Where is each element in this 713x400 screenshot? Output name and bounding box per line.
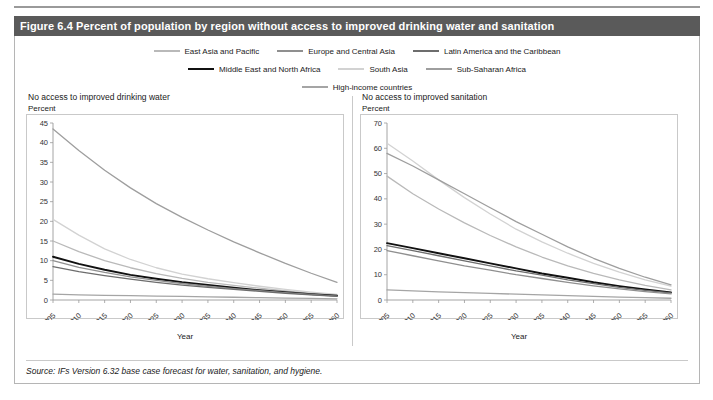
source-bar: Source: IFs Version 6.32 base case forec…	[26, 360, 688, 376]
svg-text:10: 10	[40, 256, 48, 265]
svg-text:0: 0	[44, 296, 48, 305]
legend-item-high-income-countries: High-income countries	[302, 83, 413, 92]
panel-divider	[352, 96, 353, 346]
chart-ylabel-water: Percent	[28, 104, 356, 113]
chart-title-sanitation: No access to improved sanitation	[362, 92, 690, 102]
svg-text:2015: 2015	[91, 311, 109, 320]
svg-text:2035: 2035	[528, 311, 546, 320]
svg-text:45: 45	[40, 119, 48, 128]
legend-item-sub-saharan-africa: Sub-Saharan Africa	[426, 65, 526, 74]
legend-row-1: East Asia and Pacific Europe and Central…	[14, 44, 700, 58]
plot-svg-sanitation: 0102030405060702005201020152020202520302…	[361, 115, 679, 320]
svg-text:2010: 2010	[65, 311, 83, 320]
svg-text:2020: 2020	[117, 311, 135, 320]
chart-xlabel-sanitation: Year	[360, 332, 678, 341]
chart-title-water: No access to improved drinking water	[28, 92, 356, 102]
svg-text:40: 40	[374, 194, 382, 203]
plot-area-sanitation: 0102030405060702005201020152020202520302…	[360, 114, 678, 319]
legend-label: Sub-Saharan Africa	[457, 65, 526, 74]
svg-text:2060: 2060	[657, 311, 675, 320]
svg-text:30: 30	[40, 178, 48, 187]
legend-item-europe-and-central-asia: Europe and Central Asia	[277, 47, 395, 56]
chart-panel-sanitation: No access to improved sanitation Percent…	[360, 92, 690, 354]
legend-label: Europe and Central Asia	[308, 47, 395, 56]
svg-text:2030: 2030	[502, 311, 520, 320]
legend-label: Middle East and North Africa	[219, 65, 320, 74]
svg-text:2030: 2030	[168, 311, 186, 320]
svg-text:30: 30	[374, 220, 382, 229]
legend-swatch	[413, 50, 439, 52]
svg-text:2060: 2060	[323, 311, 341, 320]
svg-text:70: 70	[374, 119, 382, 128]
plot-svg-water: 0510152025303540452005201020152020202520…	[27, 115, 345, 320]
svg-text:2010: 2010	[399, 311, 417, 320]
svg-text:0: 0	[378, 296, 382, 305]
legend-item-south-asia: South Asia	[338, 65, 407, 74]
svg-text:2035: 2035	[194, 311, 212, 320]
svg-text:35: 35	[40, 158, 48, 167]
chart-ylabel-sanitation: Percent	[362, 104, 690, 113]
legend-swatch	[426, 68, 452, 70]
svg-text:2050: 2050	[606, 311, 624, 320]
svg-text:2005: 2005	[39, 311, 57, 320]
legend-swatch	[277, 50, 303, 52]
chart-panel-water: No access to improved drinking water Per…	[26, 92, 356, 354]
svg-text:2040: 2040	[220, 311, 238, 320]
legend-item-middle-east-and-north-africa: Middle East and North Africa	[188, 65, 320, 74]
top-rule	[14, 6, 700, 8]
legend-swatch	[302, 86, 328, 88]
svg-text:2020: 2020	[451, 311, 469, 320]
svg-text:25: 25	[40, 197, 48, 206]
svg-text:2050: 2050	[272, 311, 290, 320]
svg-text:40: 40	[40, 138, 48, 147]
figure-caption: Figure 6.4 Percent of population by regi…	[14, 16, 700, 36]
svg-text:2005: 2005	[373, 311, 391, 320]
figure-caption-bar: Figure 6.4 Percent of population by regi…	[14, 16, 700, 36]
svg-text:2025: 2025	[143, 311, 161, 320]
svg-text:60: 60	[374, 144, 382, 153]
legend-swatch	[338, 68, 364, 70]
plot-area-water: 0510152025303540452005201020152020202520…	[26, 114, 344, 319]
legend-swatch	[188, 68, 214, 70]
svg-text:50: 50	[374, 169, 382, 178]
svg-text:2055: 2055	[631, 311, 649, 320]
svg-text:2055: 2055	[297, 311, 315, 320]
legend-item-east-asia-and-pacific: East Asia and Pacific	[154, 47, 260, 56]
svg-text:2045: 2045	[246, 311, 264, 320]
svg-text:2025: 2025	[477, 311, 495, 320]
legend-item-latin-america-and-the-caribbean: Latin America and the Caribbean	[413, 47, 561, 56]
svg-text:2040: 2040	[554, 311, 572, 320]
source-note: Source: IFs Version 6.32 base case forec…	[26, 361, 688, 376]
legend-swatch	[154, 50, 180, 52]
legend-row-2: Middle East and North Africa South Asia …	[14, 62, 700, 76]
legend-label: East Asia and Pacific	[185, 47, 260, 56]
legend-label: Latin America and the Caribbean	[444, 47, 561, 56]
legend-label: High-income countries	[333, 83, 413, 92]
svg-text:20: 20	[40, 217, 48, 226]
svg-text:2045: 2045	[580, 311, 598, 320]
svg-text:20: 20	[374, 245, 382, 254]
svg-text:10: 10	[374, 270, 382, 279]
svg-text:2015: 2015	[425, 311, 443, 320]
legend: East Asia and Pacific Europe and Central…	[14, 44, 700, 88]
chart-xlabel-water: Year	[26, 332, 344, 341]
svg-text:15: 15	[40, 237, 48, 246]
figure-page: Figure 6.4 Percent of population by regi…	[0, 0, 713, 400]
svg-text:5: 5	[44, 276, 48, 285]
legend-label: South Asia	[369, 65, 407, 74]
